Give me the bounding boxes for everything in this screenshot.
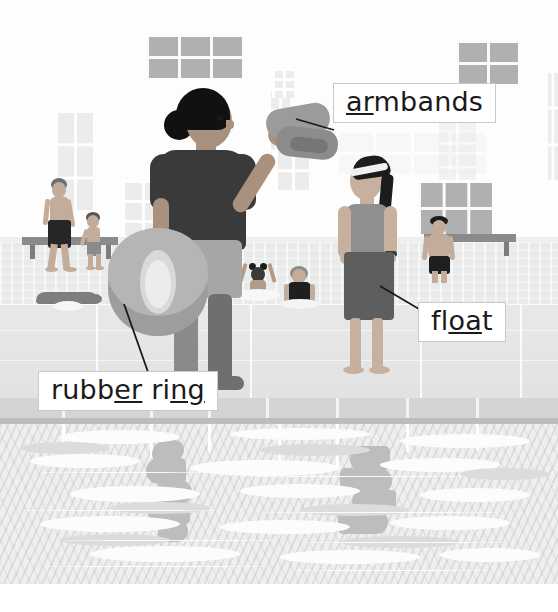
water-highlight [90, 546, 240, 562]
water-ripple [40, 472, 220, 473]
water-highlight [30, 454, 140, 468]
water-midtone [110, 502, 210, 514]
label-float[interactable]: float [418, 302, 506, 342]
woman-nose [226, 120, 234, 129]
illustration-canvas: armbands float rubber ring [0, 0, 558, 612]
water-midtone [20, 442, 110, 454]
water-highlight [400, 434, 530, 448]
water-ripple [60, 540, 280, 541]
water-midtone [460, 468, 550, 480]
deck-tile-seam [250, 304, 252, 400]
water-highlight [420, 488, 530, 502]
bench-right-leg [504, 242, 509, 256]
woman-eye [218, 116, 223, 121]
label-armbands-grapheme: ar [346, 86, 374, 117]
girl-foot-right [369, 366, 390, 374]
window-top-right [456, 40, 518, 84]
boy-torso [428, 234, 450, 258]
rubber-ring-hole-inner [145, 260, 171, 308]
water-highlight [280, 550, 420, 564]
window-right-lower [418, 180, 492, 234]
child-water-splash [238, 289, 280, 301]
boy-leg-right [441, 271, 447, 283]
window-right-upper [272, 68, 294, 98]
man-foot-left [45, 267, 58, 272]
float-board [344, 252, 394, 320]
woman-water-splash [280, 299, 320, 309]
girl-swimsuit-top [345, 204, 389, 252]
child-foot-right [95, 266, 104, 270]
post-reflection [208, 424, 211, 452]
water-ripple [20, 510, 220, 511]
deck-edge-line-4 [0, 360, 558, 361]
water-highlight [190, 460, 340, 476]
water-ripple [260, 512, 500, 513]
label-rubber-grapheme: er [114, 374, 142, 405]
girl-leg-right [372, 318, 383, 370]
pool-water [0, 424, 558, 584]
label-float-prefix: fl [431, 305, 448, 336]
water-midtone [300, 504, 410, 516]
label-ring-grapheme: ng [170, 374, 205, 405]
window-far-right-edge [545, 70, 558, 180]
boy-leg-left [432, 271, 438, 283]
label-armbands-rest: mbands [374, 86, 484, 117]
boy-head [432, 220, 446, 235]
water-ripple [40, 566, 270, 567]
water-ripple [300, 542, 510, 543]
label-ring-mid: ri [142, 374, 170, 405]
water-midtone [260, 444, 370, 456]
girl-foot-left [343, 366, 364, 374]
water-highlight [220, 520, 350, 534]
label-float-grapheme: oa [448, 305, 481, 336]
water-highlight [240, 484, 360, 498]
bench-left-leg [30, 245, 35, 259]
water-ripple [290, 570, 490, 571]
label-rubber-prefix: rubb [51, 374, 114, 405]
deck-tile-seam [520, 304, 522, 400]
child-foot-left [86, 266, 95, 270]
swimmer-splash [54, 301, 82, 311]
water-highlight [70, 486, 200, 502]
label-float-suffix: t [482, 305, 493, 336]
window-top-left [146, 34, 242, 78]
swimmer-head [88, 294, 102, 304]
man-head [52, 182, 66, 198]
water-highlight [390, 516, 510, 530]
man-foot-right [64, 267, 77, 272]
water-highlight [40, 516, 180, 532]
girl-leg-left [350, 318, 361, 370]
water-ripple [250, 476, 470, 477]
water-highlight [440, 548, 540, 562]
water-highlight [230, 428, 370, 440]
girl-shoulder-left [338, 206, 351, 258]
label-armbands[interactable]: armbands [333, 83, 496, 123]
label-rubber-ring[interactable]: rubber ring [38, 371, 218, 411]
